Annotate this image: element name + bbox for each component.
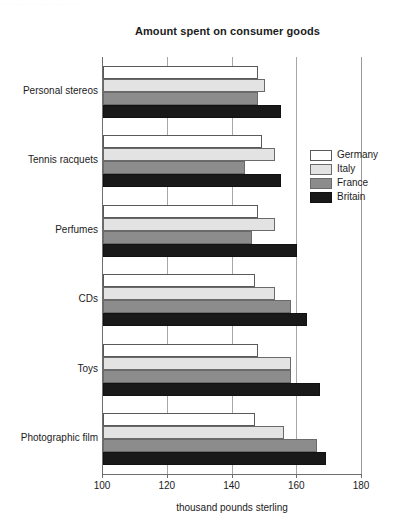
bar-italy-toys [103, 357, 291, 370]
category-label: Personal stereos [23, 85, 98, 96]
category-axis-labels: Personal stereosTennis racquetsPerfumesC… [0, 57, 98, 474]
bar-britain-perfumes [103, 244, 297, 257]
bar-britain-photographic-film [103, 452, 326, 465]
bar-france-tennis-racquets [103, 161, 245, 174]
gridline-160 [296, 57, 297, 474]
bar-germany-perfumes [103, 205, 258, 218]
bar-group [103, 274, 362, 326]
plot-right-border [361, 57, 362, 474]
bar-britain-tennis-racquets [103, 174, 281, 187]
legend-label: Britain [337, 191, 365, 202]
bar-germany-toys [103, 344, 258, 357]
legend-label: France [337, 177, 368, 188]
legend-swatch-britain [310, 192, 332, 203]
legend-label: Germany [337, 149, 378, 160]
bar-italy-perfumes [103, 218, 275, 231]
bar-france-cds [103, 300, 291, 313]
bar-britain-cds [103, 313, 307, 326]
bar-britain-personal-stereos [103, 105, 281, 118]
gridline-120 [167, 57, 168, 474]
bar-group [103, 66, 362, 118]
gridline-140 [232, 57, 233, 474]
chart-page: ···· ···· ·· ····· ····· ···· Amount spe… [0, 0, 401, 532]
legend-swatch-france [310, 178, 332, 189]
bar-france-toys [103, 370, 291, 383]
bar-france-perfumes [103, 231, 252, 244]
bar-group [103, 344, 362, 396]
bar-france-personal-stereos [103, 92, 258, 105]
x-tick-label: 120 [158, 480, 175, 491]
bar-italy-photographic-film [103, 426, 284, 439]
plot-area: 100120140160180 [102, 57, 362, 474]
category-label: Toys [77, 363, 98, 374]
y-axis-line [102, 57, 103, 474]
x-tick-mark-180 [361, 474, 362, 478]
x-tick-mark-160 [296, 474, 297, 478]
legend-swatch-germany [310, 150, 332, 161]
bar-germany-cds [103, 274, 255, 287]
bar-italy-personal-stereos [103, 79, 265, 92]
x-tick-mark-140 [232, 474, 233, 478]
category-label: CDs [79, 293, 98, 304]
x-axis-label: thousand pounds sterling [102, 502, 362, 513]
category-label: Perfumes [55, 224, 98, 235]
bar-group [103, 205, 362, 257]
x-tick-label: 100 [94, 480, 111, 491]
category-label: Photographic film [21, 432, 98, 443]
category-label: Tennis racquets [28, 154, 98, 165]
chart-title-text: Amount spent on consumer goods [135, 25, 320, 37]
bar-italy-cds [103, 287, 275, 300]
bar-germany-photographic-film [103, 413, 255, 426]
x-tick-label: 140 [223, 480, 240, 491]
x-tick-mark-120 [167, 474, 168, 478]
bar-france-photographic-film [103, 439, 317, 452]
x-tick-label: 180 [353, 480, 370, 491]
bar-germany-personal-stereos [103, 66, 258, 79]
scan-artifact-text: ···· ···· ·· ····· ····· ···· [3, 1, 153, 6]
x-tick-mark-100 [102, 474, 103, 478]
legend-label: Italy [337, 163, 355, 174]
legend-swatch-italy [310, 164, 332, 175]
x-tick-label: 160 [288, 480, 305, 491]
bar-italy-tennis-racquets [103, 148, 275, 161]
bar-britain-toys [103, 383, 320, 396]
bar-group [103, 413, 362, 465]
chart-title: Amount spent on consumer goods [0, 25, 401, 37]
bar-germany-tennis-racquets [103, 135, 262, 148]
